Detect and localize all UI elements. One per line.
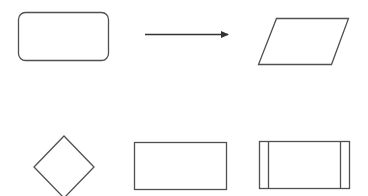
input-output-parallelogram-shape [259,19,349,65]
predefined-process-shape [260,142,350,189]
process-rectangle-shape [135,143,227,190]
terminator-shape [19,13,109,61]
flowchart-symbols-canvas: Flowchart shape legend [0,0,368,196]
decision-diamond-shape [34,136,94,196]
predefined-process-outer-rect [260,142,350,189]
flowchart-symbols-diagram [0,0,368,196]
